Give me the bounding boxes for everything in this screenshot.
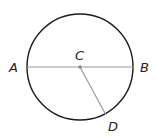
label-d: D <box>108 120 118 133</box>
center-point <box>78 65 82 69</box>
diagram-canvas <box>0 0 156 138</box>
radius-cd <box>80 67 106 115</box>
label-b: B <box>140 61 149 74</box>
circle-diagram: A B C D <box>0 0 156 138</box>
label-c: C <box>75 49 84 62</box>
label-a: A <box>9 61 18 74</box>
